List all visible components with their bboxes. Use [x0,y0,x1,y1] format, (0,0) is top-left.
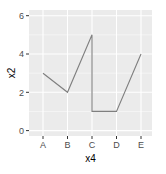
x-tick-label: E [138,140,144,150]
y-tick-label: 2 [19,88,24,98]
y-axis: 0246 [19,11,29,136]
x-tick-label: B [64,140,70,150]
y-axis-title: x2 [6,67,17,78]
x-tick-label: C [89,140,96,150]
line-chart: 0246 ABCDE x4 x2 [0,0,166,174]
x-axis-title: x4 [85,153,96,164]
y-tick-label: 0 [19,126,24,136]
x-tick-label: A [40,140,46,150]
y-tick-label: 6 [19,11,24,21]
x-axis: ABCDE [40,136,144,150]
x-tick-label: D [113,140,120,150]
y-tick-label: 4 [19,49,24,59]
